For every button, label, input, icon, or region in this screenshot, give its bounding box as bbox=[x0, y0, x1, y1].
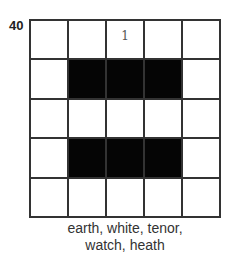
grid-cell[interactable] bbox=[106, 178, 144, 217]
grid-cell[interactable] bbox=[182, 178, 220, 217]
clue-number: 1 bbox=[107, 29, 143, 43]
grid-cell[interactable] bbox=[144, 99, 182, 138]
grid-cell[interactable] bbox=[182, 138, 220, 177]
black-cell bbox=[106, 138, 144, 177]
grid-cell[interactable] bbox=[144, 178, 182, 217]
grid-cell[interactable] bbox=[182, 99, 220, 138]
word-list-line-1: earth, white, tenor, bbox=[29, 220, 221, 237]
black-cell bbox=[144, 138, 182, 177]
black-cell bbox=[68, 138, 106, 177]
grid-cell[interactable] bbox=[30, 20, 68, 59]
word-list: earth, white, tenor, watch, heath bbox=[29, 220, 221, 254]
word-list-line-2: watch, heath bbox=[29, 237, 221, 254]
grid-cell[interactable] bbox=[68, 99, 106, 138]
black-cell bbox=[68, 59, 106, 98]
grid-cell[interactable] bbox=[30, 178, 68, 217]
grid-cell[interactable] bbox=[68, 20, 106, 59]
crossword-grid: 1 bbox=[29, 19, 221, 218]
grid-cell[interactable] bbox=[106, 99, 144, 138]
grid-cell[interactable] bbox=[182, 20, 220, 59]
grid-cell[interactable] bbox=[30, 138, 68, 177]
grid-cell[interactable] bbox=[30, 59, 68, 98]
grid-cell[interactable] bbox=[30, 99, 68, 138]
grid-cell[interactable] bbox=[182, 59, 220, 98]
puzzle-number: 40 bbox=[9, 18, 23, 33]
grid-cell[interactable] bbox=[144, 20, 182, 59]
grid-cell[interactable] bbox=[68, 178, 106, 217]
black-cell bbox=[106, 59, 144, 98]
grid-cell[interactable]: 1 bbox=[106, 20, 144, 59]
black-cell bbox=[144, 59, 182, 98]
